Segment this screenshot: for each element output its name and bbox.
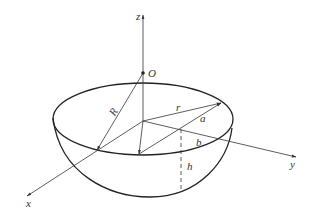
- y-axis-label: y: [289, 158, 295, 170]
- R-label: R: [106, 105, 120, 118]
- front-arrow: [139, 121, 143, 154]
- x-axis-label: x: [25, 197, 31, 209]
- z-axis-label: z: [135, 10, 141, 22]
- b-label: b: [196, 136, 202, 148]
- radius-r-arrow: [143, 103, 221, 121]
- bowl-outline: [53, 118, 232, 197]
- center-label: O: [148, 67, 156, 79]
- y-axis: [143, 121, 296, 157]
- hemisphere-diagram: z x y O R r a b h: [0, 0, 314, 218]
- h-label: h: [187, 160, 193, 172]
- a-label: a: [200, 112, 206, 124]
- r-label: r: [176, 101, 181, 113]
- x-axis: [27, 121, 143, 196]
